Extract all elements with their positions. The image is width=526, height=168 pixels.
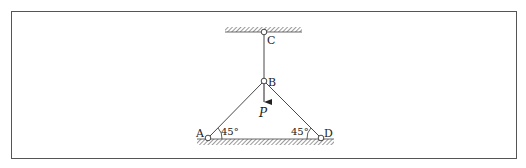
label-C: C — [267, 34, 275, 47]
pin-C-icon — [261, 29, 267, 35]
angle-label-D: 45° — [291, 126, 309, 137]
label-load-P: P — [258, 106, 268, 120]
ground-support — [197, 139, 334, 145]
truss-diagram: C B A D P 45° 45° — [0, 0, 526, 168]
pin-A-icon — [205, 135, 211, 141]
pin-B-icon — [261, 78, 267, 84]
angle-label-A: 45° — [221, 126, 239, 137]
label-A: A — [195, 127, 205, 140]
label-D: D — [324, 127, 333, 140]
pin-D-icon — [318, 135, 324, 141]
label-B: B — [268, 76, 276, 89]
